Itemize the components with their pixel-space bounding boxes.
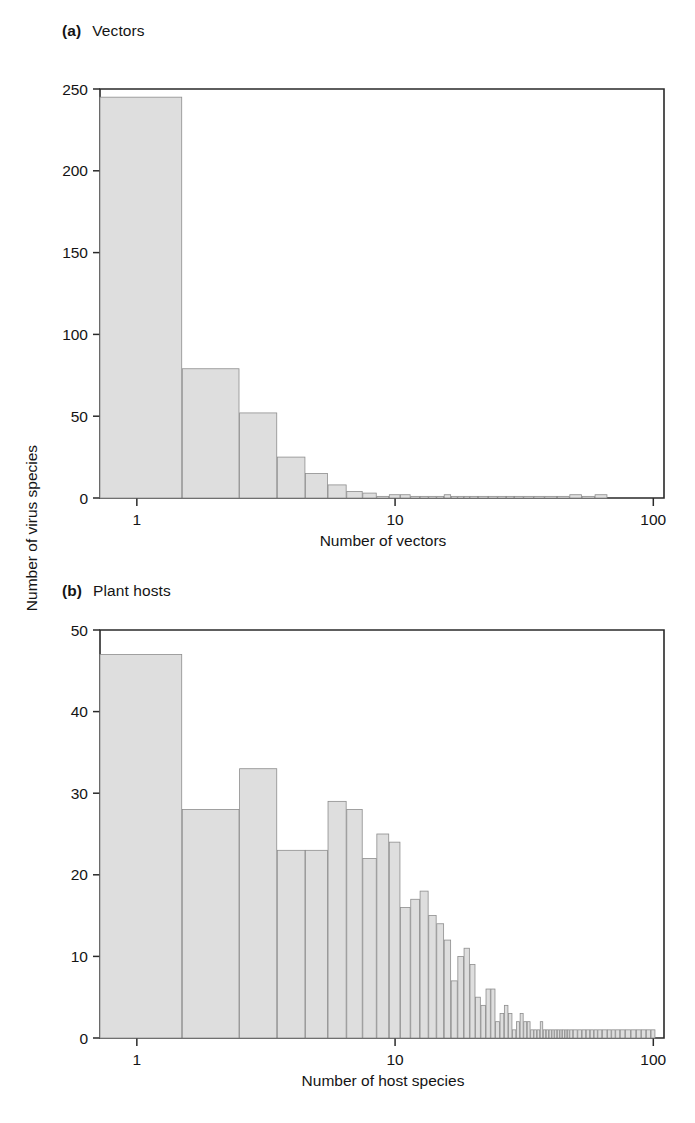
panel-b-bar [625, 1030, 630, 1038]
panel-a-bar [347, 491, 362, 498]
panel-a-bar [470, 496, 478, 498]
panel-a-bar [437, 496, 444, 498]
panel-b-bar [552, 1030, 554, 1038]
panel-a-x-tick-label: 10 [386, 511, 404, 528]
panel-a-bar [401, 495, 411, 498]
panel-b-bar [182, 810, 239, 1038]
panel-b-bar [401, 907, 411, 1038]
panel-b-bar [537, 1030, 540, 1038]
panel-b-bar [586, 1030, 589, 1038]
panel-a-bar [429, 496, 436, 498]
panel-a-y-tick-label: 0 [79, 490, 88, 507]
panel-b-bar [546, 1030, 548, 1038]
panel-b-bar [481, 1005, 485, 1038]
panel-a-y-tick-label: 250 [62, 81, 88, 98]
panel-b-bar [636, 1030, 640, 1038]
panel-a-bar [458, 496, 464, 498]
panel-b-bar [563, 1030, 565, 1038]
panel-b-y-tick-label: 0 [79, 1030, 88, 1047]
panel-b-bar [620, 1030, 625, 1038]
panel-a-bar [240, 413, 277, 498]
panel-a-bar [464, 496, 469, 498]
panel-b-bar [491, 989, 495, 1038]
panel-b-x-tick-label: 100 [640, 1051, 666, 1068]
panel-b-bar [573, 1030, 577, 1038]
panel-b-bar [557, 1030, 559, 1038]
panel-b-bar [486, 989, 490, 1038]
panel-a-bar [451, 496, 457, 498]
panel-b-bar [500, 1014, 504, 1038]
panel-b-bar [578, 1030, 582, 1038]
panel-b-bar [608, 1030, 612, 1038]
panel-b-bar [641, 1030, 645, 1038]
panel-b-bar [516, 1022, 519, 1038]
panel-b-bar [509, 1014, 512, 1038]
panel-a-bar [328, 485, 346, 498]
panel-a-bar [595, 495, 607, 498]
panel-a-bar [182, 369, 239, 498]
panel-b-bar [240, 769, 277, 1038]
charts-svg: 050100150200250110100 01020304050110100 [0, 0, 695, 1123]
panel-b-bar [411, 899, 420, 1038]
panel-a-y-tick-label: 150 [62, 244, 88, 261]
panel-b-bar [594, 1030, 597, 1038]
panel-b-bar [555, 1030, 557, 1038]
panel-a-bar [478, 496, 488, 498]
panel-a-bar [514, 496, 523, 498]
panel-a-bar [557, 496, 569, 498]
panel-b-y-tick-label: 50 [71, 622, 89, 639]
panel-b-bar [377, 834, 389, 1038]
panel-b-bar [306, 850, 328, 1038]
panel-a-bar [545, 496, 557, 498]
panel-a-bar [306, 473, 328, 498]
panel-a-x-tick-label: 100 [640, 511, 666, 528]
panel-b-bar [464, 948, 469, 1038]
panel-b-bar [451, 981, 457, 1038]
panel-a-bar [488, 496, 497, 498]
panel-b-bar [520, 1014, 523, 1038]
panel-b-bar [590, 1030, 593, 1038]
panel-a-bar [444, 495, 450, 498]
panel-b-bar [347, 810, 362, 1038]
panel-b-y-tick-label: 40 [71, 703, 89, 720]
panel-b-bar [476, 997, 481, 1038]
panel-b-x-tick-label: 1 [133, 1051, 142, 1068]
panel-a-y-tick-label: 200 [62, 162, 88, 179]
panel-b-bar [470, 965, 475, 1038]
panel-b-bar [612, 1030, 615, 1038]
panel-b-plot: 01020304050110100 [71, 622, 667, 1069]
panel-b-bar [602, 1030, 607, 1038]
panel-b-bar [616, 1030, 620, 1038]
panel-b-bar [389, 842, 400, 1038]
panel-b-bar [531, 1030, 534, 1038]
panel-b-y-tick-label: 30 [71, 785, 89, 802]
panel-b-bar [549, 1030, 551, 1038]
panel-b-bar [444, 940, 450, 1038]
panel-a-bar [582, 496, 594, 498]
panel-b-y-tick-label: 20 [71, 866, 89, 883]
panel-b-bar [651, 1030, 655, 1038]
panel-b-bar [363, 858, 376, 1038]
panel-a-bar [389, 495, 400, 498]
panel-b-bar [429, 916, 436, 1038]
panel-b-bar [582, 1030, 586, 1038]
panel-b-bar [100, 654, 182, 1038]
panel-b-bar [567, 1030, 569, 1038]
panel-a-bar [411, 496, 420, 498]
panel-b-bar [534, 1030, 537, 1038]
panel-b-bar [277, 850, 305, 1038]
panel-a-bar [377, 496, 389, 498]
panel-b-bar [328, 801, 346, 1038]
panel-b-x-tick-label: 10 [386, 1051, 404, 1068]
panel-a-bar [534, 496, 544, 498]
panel-a-x-tick-label: 1 [133, 511, 142, 528]
panel-b-bar [420, 891, 428, 1038]
panel-b-bar [598, 1030, 602, 1038]
figure-container: (a)Vectors (b)Plant hosts Number of viru… [0, 0, 695, 1123]
panel-a-bar [363, 493, 376, 498]
panel-b-y-tick-label: 10 [71, 948, 89, 965]
panel-b-bar [513, 1030, 516, 1038]
panel-b-bar [527, 1022, 530, 1038]
panel-a-y-tick-label: 50 [71, 408, 89, 425]
panel-a-bar [498, 496, 506, 498]
